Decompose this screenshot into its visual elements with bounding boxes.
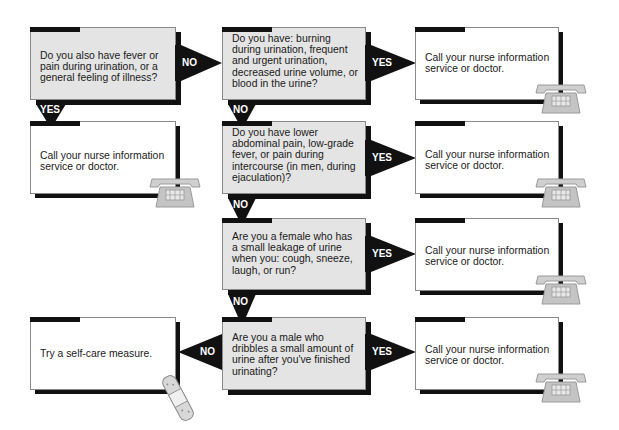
outcome-text: Try a self-care measure. [40,348,169,359]
outcome-text: Call your nurse information service or d… [40,150,169,172]
arrow-label-yes: YES [372,248,392,259]
box-accent-bar [222,317,272,322]
telephone-icon [534,175,588,209]
arrow-label-no: NO [233,104,248,115]
bandage-icon [160,373,196,423]
box-accent-bar [30,27,80,32]
outcome-text: Call your nurse information service or d… [425,344,552,366]
outcome-box-self-care: Try a self-care measure. [30,317,176,390]
box-accent-bar [30,121,80,126]
arrow-label-no: NO [233,296,248,307]
box-accent-bar [415,121,465,126]
arrow-label-no: NO [200,346,215,357]
question-box-2: Do you have: burning during urination, f… [222,27,366,100]
box-accent-bar [222,27,272,32]
question-box-1: Do you also have fever or pain during ur… [30,27,176,100]
outcome-text: Call your nurse information service or d… [425,149,552,171]
question-box-4: Are you a female who has a small leakage… [222,218,366,290]
question-text: Are you a female who has a small leakage… [232,231,359,276]
box-accent-bar [415,218,465,223]
arrow-label-yes: YES [372,57,392,68]
outcome-text: Call your nurse information service or d… [425,52,552,74]
telephone-icon [534,272,588,306]
arrow-label-yes: YES [40,104,60,115]
outcome-text: Call your nurse information service or d… [425,245,552,267]
question-box-3: Do you have lower abdominal pain, low-gr… [222,121,366,194]
question-text: Do you have lower abdominal pain, low-gr… [232,127,359,183]
question-text: Are you a male who dribbles a small amou… [232,332,359,377]
question-box-5: Are you a male who dribbles a small amou… [222,317,366,390]
arrow-label-no: NO [182,57,197,68]
box-accent-bar [30,317,80,322]
telephone-icon [148,175,202,209]
box-accent-bar [222,121,272,126]
arrow-label-no: NO [233,199,248,210]
arrow-label-yes: YES [372,346,392,357]
arrow-label-yes: YES [372,152,392,163]
telephone-icon [534,370,588,404]
box-accent-bar [222,218,272,223]
question-text: Do you also have fever or pain during ur… [40,50,169,84]
question-text: Do you have: burning during urination, f… [232,33,359,89]
box-accent-bar [415,317,465,322]
telephone-icon [534,81,588,115]
box-accent-bar [415,27,465,32]
